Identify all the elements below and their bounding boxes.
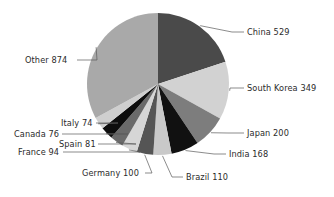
slice-label-canada: Canada 76	[14, 129, 59, 139]
slice-label-china: China 529	[247, 27, 290, 37]
slice-label-italy: Italy 74	[61, 118, 93, 128]
slice-label-south-korea: South Korea 349	[247, 83, 316, 93]
pie-chart-figure: China 529 South Korea 349 Japan 200 Indi…	[0, 0, 334, 197]
slice-label-japan: Japan 200	[246, 128, 289, 138]
slice-label-germany: Germany 100	[82, 168, 139, 178]
slice-label-spain: Spain 81	[59, 139, 96, 149]
slice-label-france: France 94	[18, 147, 59, 157]
pie-chart-canvas: China 529 South Korea 349 Japan 200 Indi…	[0, 0, 334, 197]
slice-label-other: Other 874	[25, 55, 67, 65]
slice-label-brazil: Brazil 110	[186, 172, 228, 182]
slice-label-india: India 168	[229, 149, 268, 159]
